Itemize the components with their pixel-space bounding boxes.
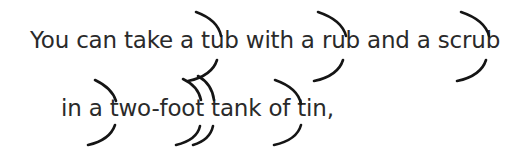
arc-mark-foot-double — [176, 76, 214, 145]
arc-mark-scrub — [457, 12, 489, 81]
arc-mark-two — [88, 80, 116, 145]
arc-mark-tin — [274, 80, 301, 145]
arc-mark-tub — [188, 12, 221, 81]
arc-mark-rub — [314, 12, 346, 81]
rhythm-arcs — [0, 0, 532, 159]
